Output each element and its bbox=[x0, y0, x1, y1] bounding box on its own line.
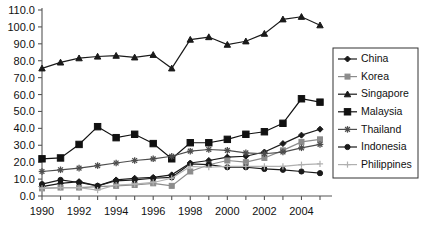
marker-circle bbox=[317, 171, 322, 176]
marker-circle bbox=[76, 180, 81, 185]
series-singapore bbox=[39, 14, 323, 71]
x-tick-label: 1992 bbox=[67, 205, 91, 217]
y-tick-label: 70.0 bbox=[14, 72, 35, 84]
marker-square-gray bbox=[345, 74, 350, 79]
legend-label: Singapore bbox=[361, 87, 409, 99]
marker-square bbox=[298, 96, 304, 102]
line-chart: 0.010.020.030.040.050.060.070.080.090.01… bbox=[0, 0, 421, 226]
marker-square-gray bbox=[188, 169, 193, 174]
y-tick-label: 60.0 bbox=[14, 89, 35, 101]
marker-asterisk bbox=[150, 156, 157, 163]
x-tick-label: 2002 bbox=[252, 205, 276, 217]
series-indonesia bbox=[39, 161, 322, 188]
legend-label: China bbox=[361, 52, 389, 64]
marker-diamond bbox=[317, 126, 323, 132]
marker-square bbox=[94, 123, 100, 129]
marker-asterisk bbox=[39, 168, 46, 175]
marker-square bbox=[57, 155, 63, 161]
marker-square bbox=[206, 140, 212, 146]
marker-asterisk bbox=[94, 162, 101, 169]
marker-square bbox=[76, 141, 82, 147]
legend-label: Thailand bbox=[361, 123, 401, 135]
marker-asterisk bbox=[243, 150, 250, 157]
marker-diamond bbox=[280, 141, 286, 147]
y-tick-label: 30.0 bbox=[14, 139, 35, 151]
y-tick-label: 80.0 bbox=[14, 55, 35, 67]
y-tick-label: 90.0 bbox=[14, 38, 35, 50]
marker-asterisk bbox=[57, 166, 64, 173]
marker-plus bbox=[317, 161, 323, 167]
marker-triangle bbox=[150, 52, 156, 58]
marker-asterisk bbox=[113, 160, 120, 167]
marker-asterisk bbox=[131, 157, 138, 164]
x-tick-label: 1990 bbox=[30, 205, 54, 217]
marker-square bbox=[131, 131, 137, 137]
y-tick-label: 110.0 bbox=[8, 4, 35, 16]
marker-square bbox=[344, 109, 350, 115]
marker-square bbox=[243, 131, 249, 137]
series-line bbox=[42, 139, 320, 188]
y-tick-label: 100.0 bbox=[7, 21, 35, 33]
y-tick-label: 50.0 bbox=[14, 105, 35, 117]
series-line bbox=[42, 99, 320, 159]
marker-square bbox=[224, 136, 230, 142]
marker-square-gray bbox=[225, 158, 230, 163]
marker-square bbox=[280, 120, 286, 126]
marker-square bbox=[187, 140, 193, 146]
y-tick-label: 20.0 bbox=[14, 156, 35, 168]
marker-square-gray bbox=[318, 137, 323, 142]
marker-square bbox=[113, 134, 119, 140]
marker-asterisk bbox=[344, 126, 351, 133]
marker-asterisk bbox=[187, 148, 194, 155]
y-tick-label: 40.0 bbox=[14, 122, 35, 134]
marker-square bbox=[317, 99, 323, 105]
y-tick-label: 0.0 bbox=[20, 190, 35, 202]
marker-circle bbox=[299, 169, 304, 174]
series-line bbox=[42, 144, 320, 171]
series-line bbox=[42, 17, 320, 69]
legend-label: Malaysia bbox=[361, 105, 403, 117]
marker-circle bbox=[345, 144, 350, 149]
marker-diamond bbox=[298, 132, 304, 138]
x-tick-label: 1994 bbox=[104, 205, 128, 217]
series-philippines bbox=[39, 161, 323, 193]
marker-asterisk bbox=[280, 149, 287, 156]
marker-square-gray bbox=[169, 183, 174, 188]
marker-asterisk bbox=[168, 153, 175, 160]
marker-circle bbox=[58, 177, 63, 182]
marker-square bbox=[39, 156, 45, 162]
marker-asterisk bbox=[206, 146, 213, 153]
marker-asterisk bbox=[76, 165, 83, 172]
legend-label: Indonesia bbox=[361, 140, 407, 152]
chart-container: 0.010.020.030.040.050.060.070.080.090.01… bbox=[0, 0, 421, 226]
marker-asterisk bbox=[261, 150, 268, 157]
marker-square bbox=[261, 129, 267, 135]
legend-label: Philippines bbox=[361, 158, 412, 170]
y-tick-label: 10.0 bbox=[14, 173, 35, 185]
x-tick-label: 1998 bbox=[178, 205, 202, 217]
legend-label: Korea bbox=[361, 70, 389, 82]
marker-square bbox=[150, 140, 156, 146]
marker-triangle bbox=[317, 22, 323, 28]
x-tick-label: 1996 bbox=[141, 205, 165, 217]
x-tick-label: 2004 bbox=[289, 205, 313, 217]
marker-asterisk bbox=[298, 145, 305, 152]
legend: ChinaKoreaSingaporeMalaysiaThailandIndon… bbox=[333, 48, 418, 178]
marker-square-gray bbox=[299, 139, 304, 144]
marker-plus bbox=[298, 162, 304, 168]
marker-asterisk bbox=[317, 141, 324, 148]
series-china bbox=[39, 126, 323, 189]
x-tick-label: 2000 bbox=[215, 205, 239, 217]
marker-asterisk bbox=[224, 147, 231, 154]
